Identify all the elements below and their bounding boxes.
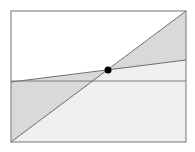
diagram-canvas <box>0 0 195 152</box>
intersection-point <box>105 67 112 74</box>
